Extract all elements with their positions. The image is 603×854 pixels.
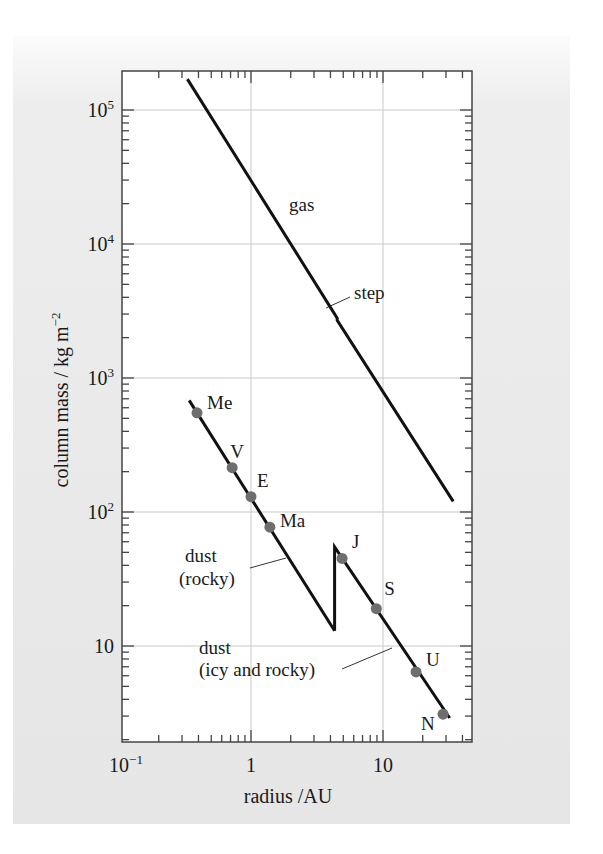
x-tick-label: 10−1 bbox=[109, 752, 143, 776]
x-tick-label: 10 bbox=[373, 754, 393, 776]
dust-rocky-label-line1: dust bbox=[185, 545, 217, 566]
planet-label-e: E bbox=[257, 470, 269, 491]
planet-label-j: J bbox=[352, 531, 359, 552]
planet-marker-s bbox=[371, 603, 382, 614]
step-label: step bbox=[354, 282, 385, 303]
x-axis-title: radius /AU bbox=[244, 785, 333, 807]
chart: MeVEMaJSUN 10−1110 10102103104105 gas st… bbox=[0, 0, 603, 854]
planet-label-u: U bbox=[426, 649, 440, 670]
planet-label-me: Me bbox=[207, 392, 232, 413]
y-tick-label: 102 bbox=[88, 499, 115, 523]
planet-label-n: N bbox=[421, 713, 435, 734]
planet-marker-v bbox=[227, 462, 238, 473]
planet-marker-e bbox=[246, 491, 257, 502]
planet-label-ma: Ma bbox=[280, 510, 306, 531]
planet-label-s: S bbox=[384, 578, 395, 599]
planet-marker-ma bbox=[264, 522, 275, 533]
y-tick-label: 105 bbox=[88, 97, 115, 121]
planet-marker-j bbox=[337, 553, 348, 564]
y-tick-label: 10 bbox=[94, 635, 114, 657]
y-tick-labels: 10102103104105 bbox=[88, 97, 115, 657]
gas-label: gas bbox=[289, 194, 314, 215]
dust-rocky-label-line2: (rocky) bbox=[179, 568, 235, 590]
planet-marker-u bbox=[411, 666, 422, 677]
dust-icy-label-line1: dust bbox=[199, 637, 231, 658]
planet-marker-n bbox=[438, 709, 449, 720]
x-tick-labels: 10−1110 bbox=[109, 752, 393, 776]
y-tick-label: 103 bbox=[88, 365, 115, 389]
y-axis-title-exponent: −2 bbox=[48, 313, 63, 327]
planet-label-v: V bbox=[230, 441, 244, 462]
dust-icy-label-line2: (icy and rocky) bbox=[199, 659, 315, 681]
x-tick-label: 1 bbox=[246, 754, 256, 776]
y-tick-label: 104 bbox=[88, 231, 115, 255]
y-axis-title: column mass / kg m−2 bbox=[48, 313, 73, 488]
plot-area bbox=[122, 71, 472, 742]
y-axis-title-main: column mass / kg m bbox=[50, 326, 73, 488]
planet-marker-me bbox=[192, 407, 203, 418]
